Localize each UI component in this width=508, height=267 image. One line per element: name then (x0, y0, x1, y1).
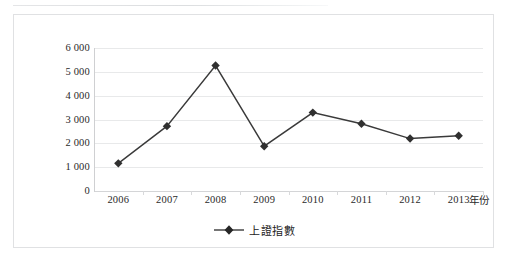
x-tick-2011: 2011 (351, 195, 372, 206)
legend-label: 上證指數 (249, 222, 295, 238)
x-axis-title: 年份 (469, 195, 489, 206)
x-tick-2012: 2012 (399, 195, 421, 206)
legend-entry-shanghai-composite[interactable]: 上證指數 (214, 222, 295, 238)
x-tick-mark (337, 191, 338, 195)
y-tick-1000: 1 000 (38, 162, 90, 173)
x-tick-mark (434, 191, 435, 195)
chart-page: 6 000 5 000 4 000 3 000 2 000 1 000 0 20… (0, 0, 508, 267)
y-tick-2000: 2 000 (38, 138, 90, 149)
data-point-2013[interactable] (454, 132, 462, 140)
series-line-shanghai-composite (94, 48, 483, 191)
y-tick-4000: 4 000 (38, 90, 90, 101)
data-point-2012[interactable] (406, 134, 414, 142)
y-tick-5000: 5 000 (38, 67, 90, 78)
y-axis-tick-labels: 6 000 5 000 4 000 3 000 2 000 1 000 0 (34, 48, 90, 191)
x-tick-mark (386, 191, 387, 195)
series-polyline (118, 66, 458, 164)
x-tick-mark (240, 191, 241, 195)
x-tick-2009: 2009 (253, 195, 275, 206)
x-tick-2008: 2008 (205, 195, 227, 206)
chart-frame: 6 000 5 000 4 000 3 000 2 000 1 000 0 20… (13, 14, 494, 248)
x-tick-2006: 2006 (107, 195, 129, 206)
y-tick-6000: 6 000 (38, 43, 90, 54)
diamond-marker-icon (214, 224, 244, 236)
x-tick-2007: 2007 (156, 195, 178, 206)
y-tick-0: 0 (38, 186, 90, 197)
chart-legend: 上證指數 (14, 222, 495, 238)
x-tick-mark (191, 191, 192, 195)
x-tick-mark (289, 191, 290, 195)
y-tick-3000: 3 000 (38, 114, 90, 125)
x-tick-2010: 2010 (302, 195, 324, 206)
x-axis-tick-labels: 20062007200820092010201120122013 (94, 195, 483, 211)
page-top-rule (13, 5, 328, 6)
x-tick-2013: 2013 (448, 195, 470, 206)
data-point-2009[interactable] (260, 142, 268, 150)
data-point-2011[interactable] (357, 120, 365, 128)
data-point-2010[interactable] (309, 108, 317, 116)
x-tick-mark (143, 191, 144, 195)
